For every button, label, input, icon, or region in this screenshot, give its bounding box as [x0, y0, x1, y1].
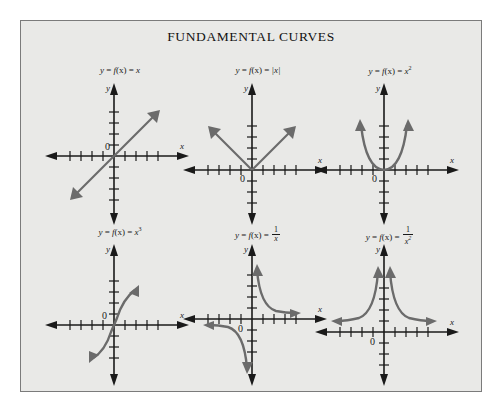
- fraction-numerator: 1: [403, 226, 414, 234]
- axis-arrowheads: [183, 244, 327, 386]
- plot-identity: 0 x y: [43, 79, 197, 225]
- figure-title: FUNDAMENTAL CURVES: [21, 29, 481, 45]
- axis-arrowheads: [315, 83, 459, 225]
- plot-reciprocal: 0 x y: [181, 240, 335, 386]
- label-eq1: =: [241, 230, 246, 240]
- label-y: y: [235, 65, 239, 75]
- label-eq1: =: [105, 227, 110, 237]
- x-axis-label: x: [449, 317, 454, 327]
- y-axis-label: y: [105, 83, 110, 93]
- origin-label: 0: [240, 173, 245, 184]
- label-eq1: =: [106, 65, 111, 75]
- panel-identity: y = f(x) = x: [43, 65, 197, 225]
- plot-reciprocal-square: 0 x y: [313, 240, 467, 386]
- origin-label: 0: [238, 323, 243, 334]
- x-axis-label: x: [449, 155, 454, 165]
- plot-square: 0 x y: [313, 79, 467, 225]
- panel-reciprocal: y = f(x) = 1 x: [181, 226, 335, 386]
- label-y: y: [368, 66, 372, 76]
- plot-cube: 0 x y: [43, 240, 197, 386]
- y-axis-label: y: [375, 83, 380, 93]
- origin-label: 0: [105, 141, 110, 152]
- panel-reciprocal-square: y = f(x) = 1 x2: [313, 226, 467, 386]
- panel-square: y = f(x) = x2: [313, 65, 467, 225]
- label-y: y: [98, 227, 102, 237]
- origin-label: 0: [102, 310, 107, 321]
- label-arg: (x): [116, 65, 127, 75]
- panel-label-identity: y = f(x) = x: [43, 65, 197, 75]
- fraction-numerator: 1: [272, 226, 280, 234]
- label-y: y: [100, 65, 104, 75]
- panel-label-square: y = f(x) = x2: [313, 65, 467, 76]
- label-y: y: [235, 230, 239, 240]
- label-rhs: |x|: [272, 65, 281, 75]
- label-eq2: =: [264, 230, 269, 240]
- label-eq2: =: [264, 65, 269, 75]
- label-eq2: =: [127, 227, 132, 237]
- axis-arrowheads: [183, 83, 327, 225]
- panel-absolute-value: y = f(x) = |x|: [181, 65, 335, 225]
- label-exponent: 3: [139, 226, 142, 232]
- label-eq2: =: [129, 65, 134, 75]
- label-exponent: 2: [409, 65, 412, 71]
- panel-label-cube: y = f(x) = x3: [43, 226, 197, 237]
- label-arg: (x): [251, 230, 262, 240]
- label-rhs: x: [136, 65, 140, 75]
- origin-label: 0: [372, 173, 377, 184]
- y-axis-label: y: [243, 83, 248, 93]
- panel-label-absolute-value: y = f(x) = |x|: [181, 65, 335, 75]
- origin-label: 0: [370, 336, 375, 347]
- panel-cube: y = f(x) = x3: [43, 226, 197, 386]
- y-axis-label: y: [243, 244, 248, 254]
- label-arg: (x): [115, 227, 126, 237]
- plot-absolute-value: 0 x y: [181, 79, 335, 225]
- figure-frame: FUNDAMENTAL CURVES y = f(x) = x: [20, 20, 482, 392]
- y-axis-label: y: [375, 244, 380, 254]
- label-eq1: =: [242, 65, 247, 75]
- label-eq1: =: [375, 66, 380, 76]
- label-eq2: =: [397, 66, 402, 76]
- y-axis-label: y: [105, 244, 110, 254]
- label-arg: (x): [252, 65, 263, 75]
- label-arg: (x): [385, 66, 396, 76]
